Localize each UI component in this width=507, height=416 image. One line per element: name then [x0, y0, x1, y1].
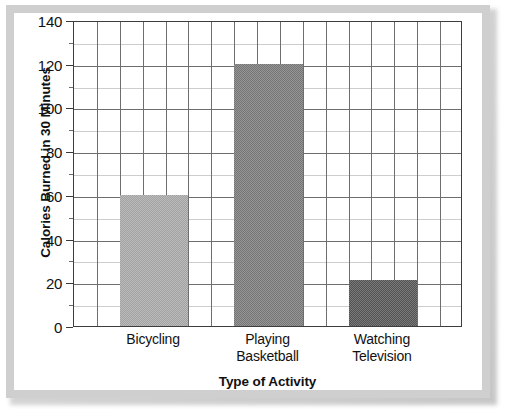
y-axis-tick-label: 60 — [20, 187, 62, 204]
y-tick-major — [66, 196, 73, 197]
y-axis-tick-label: 20 — [20, 275, 62, 292]
y-axis-tick-label: 0 — [20, 319, 62, 336]
chart-area: Calories Burned in 30 Minutes 0204060801… — [14, 13, 482, 390]
x-axis-label-line: Basketball — [210, 348, 324, 365]
bar-watching-television — [349, 280, 418, 326]
y-axis-tick-labels: 020406080100120140 — [20, 21, 62, 327]
bar-halftone-texture — [120, 195, 189, 326]
y-axis-tick-label: 100 — [20, 100, 62, 117]
y-tick-major — [66, 327, 73, 328]
gridline-vertical — [440, 22, 441, 326]
x-axis-label-playing-basketball: PlayingBasketball — [210, 331, 324, 364]
y-tick-major — [66, 240, 73, 241]
x-axis-label-bicycling: Bicycling — [96, 331, 210, 348]
y-tick-major — [66, 108, 73, 109]
gridline-vertical — [97, 22, 98, 326]
gridline-vertical — [326, 22, 327, 326]
bar-halftone-texture — [349, 280, 418, 326]
gridline-vertical — [211, 22, 212, 326]
bar-bicycling — [120, 195, 189, 326]
y-axis-tick-marks — [66, 21, 73, 327]
x-axis-label-line: Television — [325, 348, 439, 365]
y-axis-tick-label: 40 — [20, 231, 62, 248]
x-axis-label-watching-television: WatchingTelevision — [325, 331, 439, 364]
y-tick-major — [66, 21, 73, 22]
gridline-horizontal-minor — [74, 44, 461, 45]
x-axis-label-line: Bicycling — [96, 331, 210, 348]
y-axis-tick-label: 80 — [20, 144, 62, 161]
y-tick-major — [66, 65, 73, 66]
y-tick-major — [66, 152, 73, 153]
bar-playing-basketball — [234, 64, 303, 326]
x-axis-label-line: Watching — [325, 331, 439, 348]
x-axis-category-labels: BicyclingPlayingBasketballWatchingTelevi… — [73, 331, 462, 373]
x-axis-title: Type of Activity — [73, 374, 462, 389]
gridline-vertical — [188, 22, 189, 326]
y-axis-tick-label: 140 — [20, 13, 62, 30]
y-axis-tick-label: 120 — [20, 56, 62, 73]
x-axis-label-line: Playing — [210, 331, 324, 348]
y-tick-major — [66, 283, 73, 284]
bar-chart-figure: Calories Burned in 30 Minutes 0204060801… — [0, 0, 507, 416]
bar-halftone-texture — [234, 64, 303, 326]
plot-area — [73, 21, 462, 327]
gridline-vertical — [303, 22, 304, 326]
gridline-vertical — [417, 22, 418, 326]
